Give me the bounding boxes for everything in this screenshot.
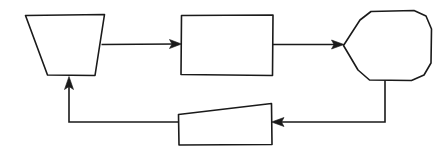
node-1-outline bbox=[26, 15, 105, 76]
edge-3-line bbox=[278, 81, 386, 123]
node-rectangle[interactable] bbox=[181, 15, 273, 76]
node-2-outline bbox=[181, 15, 273, 76]
edge-4-line bbox=[69, 83, 179, 122]
node-trapezoid-sloped[interactable] bbox=[179, 104, 273, 146]
edge-1-line bbox=[102, 44, 177, 45]
connector-node3-to-node4 bbox=[272, 81, 386, 127]
node-4-outline bbox=[179, 104, 273, 146]
node-trapezoid-inverted[interactable] bbox=[26, 15, 105, 76]
connector-node4-to-node1 bbox=[65, 77, 179, 123]
diagram-canvas bbox=[0, 0, 439, 157]
node-hexagon[interactable] bbox=[344, 11, 432, 81]
diagram-svg bbox=[0, 0, 439, 157]
node-3-outline bbox=[344, 11, 432, 81]
connector-node2-to-node3 bbox=[273, 40, 344, 49]
connector-node1-to-node2 bbox=[102, 40, 182, 49]
